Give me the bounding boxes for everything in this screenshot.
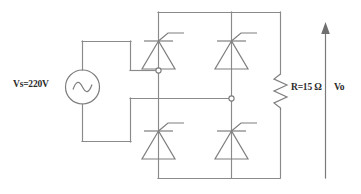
thyristor-bottom-right bbox=[215, 123, 257, 159]
ac-voltage-source-symbol bbox=[66, 70, 100, 104]
circuit-schematic-canvas bbox=[0, 0, 361, 194]
node-ac-terminal-right bbox=[229, 96, 234, 101]
thyristor-top-right bbox=[215, 33, 257, 69]
thyristor-top-right-gate-lead bbox=[232, 33, 258, 41]
thyristor-bottom-left bbox=[142, 123, 184, 159]
source-voltage-label: Vs=220V bbox=[13, 80, 49, 90]
thyristor-top-left-gate-lead bbox=[159, 33, 185, 41]
ac-source-sine-wave bbox=[73, 82, 92, 91]
resistor-zigzag bbox=[274, 74, 287, 110]
circuit-diagram: Vs=220V R=15 Ω Vo bbox=[0, 0, 361, 194]
junction-nodes bbox=[156, 68, 234, 101]
thyristor-bottom-left-gate-lead bbox=[159, 123, 185, 131]
node-ac-terminal-left bbox=[156, 68, 161, 73]
thyristor-bottom-right-gate-lead bbox=[232, 123, 258, 131]
vo-arrow-head-icon bbox=[321, 22, 330, 34]
source-wiring bbox=[82, 41, 232, 142]
resistor-value-label: R=15 Ω bbox=[291, 83, 322, 93]
bridge-frame bbox=[158, 12, 281, 179]
thyristor-top-left bbox=[142, 33, 184, 69]
output-voltage-arrow bbox=[321, 22, 330, 178]
load-resistor-symbol bbox=[274, 74, 287, 110]
output-voltage-label: Vo bbox=[334, 83, 344, 93]
